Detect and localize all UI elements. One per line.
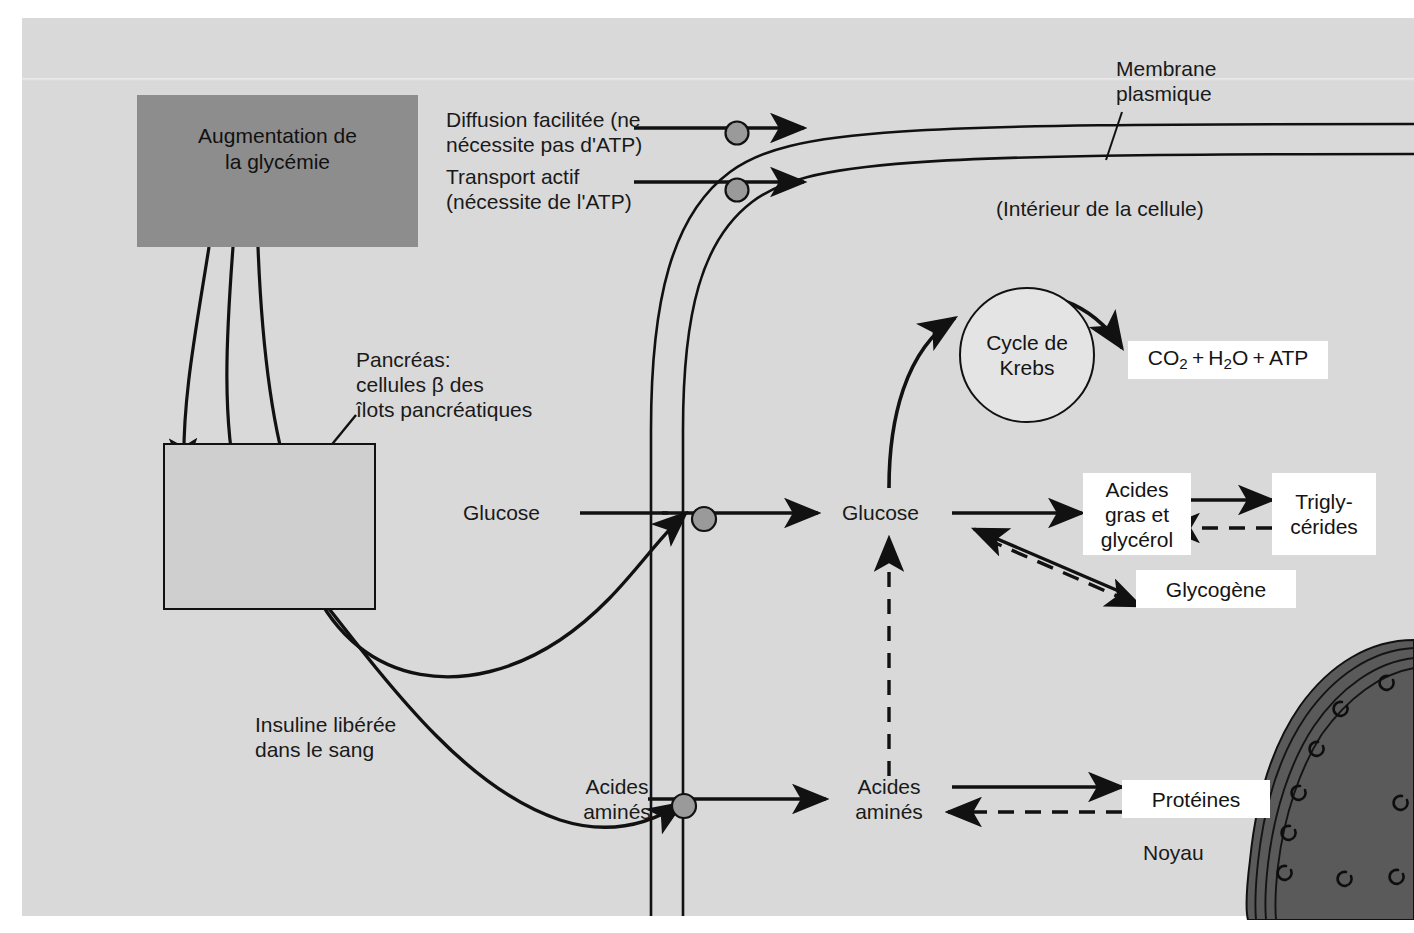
legend-active-transport-label: Transport actif (nécessite de l'ATP) xyxy=(446,164,632,214)
figure-root: Augmentation de la glycémie Diffusion fa… xyxy=(0,0,1414,933)
glycemia-box: Augmentation de la glycémie xyxy=(137,95,418,247)
amino-acids-outside-label: Acides aminés xyxy=(581,774,653,824)
amino-acid-transport-arrow xyxy=(648,794,826,818)
triglycerides-box: Trigly- cérides xyxy=(1272,473,1376,555)
co2-box: CO2 + H2O + ATP xyxy=(1128,341,1328,379)
glucose-inside-label: Glucose xyxy=(842,500,919,525)
glycogen-label: Glycogène xyxy=(1166,577,1266,602)
glucose-transport-arrow xyxy=(580,507,818,531)
glucose-outside-label: Glucose xyxy=(463,500,540,525)
fatty-acids-box: Acides gras et glycérol xyxy=(1083,473,1191,555)
co2-label: CO2 + H2O + ATP xyxy=(1148,345,1308,376)
glycogen-box: Glycogène xyxy=(1136,570,1296,608)
membrane-label: Membrane plasmique xyxy=(1116,56,1216,106)
glycemia-label: Augmentation de la glycémie xyxy=(198,123,357,175)
insulin-label: Insuline libérée dans le sang xyxy=(255,712,396,762)
glucose-carrier-icon xyxy=(692,507,716,531)
legend-facilitated-diffusion-label: Diffusion facilitée (ne nécessite pas d'… xyxy=(446,107,642,157)
legend-arrow-diffusion xyxy=(634,122,804,145)
proteins-box: Protéines xyxy=(1122,780,1270,818)
krebs-label: Cycle de Krebs xyxy=(986,330,1068,380)
fatty-acids-label: Acides gras et glycérol xyxy=(1101,477,1173,552)
krebs-cycle-node: Cycle de Krebs xyxy=(959,287,1095,423)
nucleus-label: Noyau xyxy=(1143,840,1204,865)
legend-arrow-active-transport xyxy=(634,179,804,202)
membrane-leader-line xyxy=(1106,112,1122,160)
pancreas-label: Pancréas: cellules β des îlots pancréati… xyxy=(356,347,532,422)
cell-interior-label: (Intérieur de la cellule) xyxy=(996,196,1204,221)
nucleus-illustration xyxy=(1247,640,1414,920)
amino-acid-carrier-icon xyxy=(672,794,696,818)
proteins-label: Protéines xyxy=(1152,787,1241,812)
amino-acids-inside-label: Acides aminés xyxy=(853,774,925,824)
triglycerides-label: Trigly- cérides xyxy=(1290,489,1358,539)
pancreatic-islet-frame xyxy=(163,443,376,610)
glucose-to-krebs-arrow xyxy=(889,318,955,488)
